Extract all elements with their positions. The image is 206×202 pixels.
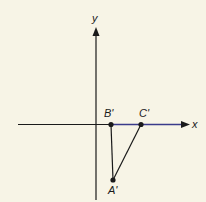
coordinate-diagram <box>0 0 206 202</box>
x-axis-arrow-icon <box>181 121 190 128</box>
y-axis-arrow-icon <box>93 27 100 36</box>
label-a: A' <box>108 185 117 196</box>
label-b: B' <box>104 108 113 119</box>
point-a <box>110 177 115 182</box>
point-b <box>108 122 113 127</box>
label-c: C' <box>139 108 149 119</box>
point-c <box>138 122 143 127</box>
x-axis-label: x <box>192 119 198 130</box>
y-axis-label: y <box>92 13 98 24</box>
segment-b-a <box>111 125 113 181</box>
segment-c-a <box>113 125 141 181</box>
